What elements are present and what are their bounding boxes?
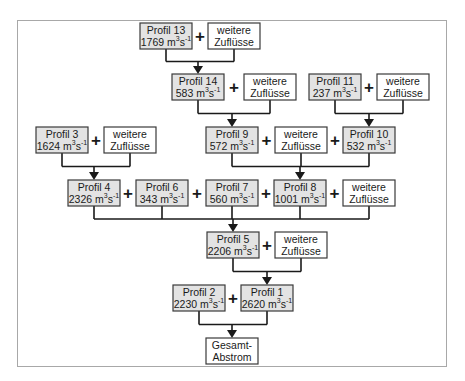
flow-connector	[335, 100, 403, 127]
box-line-2: Zuflüsse	[383, 87, 423, 99]
plus-sign: +	[228, 289, 238, 308]
profile-name: Profil 14	[179, 75, 218, 87]
box-line-1: weitere	[283, 128, 318, 140]
profile-box-p3: Profil 31624 m3s-1	[36, 127, 88, 153]
box-line-1: Gesamt-	[212, 339, 253, 351]
profile-name: Profil 10	[350, 128, 389, 140]
box-line-2: Abstrom	[212, 351, 251, 363]
inflow-box: weitereZuflüsse	[104, 127, 156, 153]
flow-connector	[199, 311, 267, 338]
box-line-2: Zuflüsse	[281, 245, 321, 257]
plus-sign: +	[123, 184, 133, 203]
discharge-value: 2620 m3s-1	[242, 297, 293, 310]
box-line-2: Zuflüsse	[349, 193, 389, 205]
plus-sign: +	[261, 184, 271, 203]
discharge-value: 560 m3s-1	[210, 192, 255, 205]
profile-box-p5: Profil 52206 m3s-1	[207, 232, 259, 258]
profile-box-p1: Profil 12620 m3s-1	[241, 285, 293, 311]
arrow-down-icon	[295, 172, 305, 180]
arrow-down-icon	[228, 224, 238, 232]
profile-box-p4: Profil 42326 m3s-1	[68, 180, 120, 206]
profile-box-p6: Profil 6343 m3s-1	[136, 180, 188, 206]
box-line-1: weitere	[351, 181, 386, 193]
profile-box-p7: Profil 7560 m3s-1	[206, 180, 258, 206]
flow-diagram: ++++++++++++Profil 131769 m3s-1weitereZu…	[0, 0, 465, 381]
plus-sign: +	[229, 78, 239, 97]
profile-box-p10: Profil 10532 m3s-1	[343, 127, 395, 153]
discharge-value: 1624 m3s-1	[37, 139, 88, 152]
profile-name: Profil 11	[316, 75, 354, 87]
box-line-1: weitere	[112, 128, 147, 140]
profile-box-p13: Profil 131769 m3s-1	[140, 23, 192, 49]
profile-box-p9: Profil 9572 m3s-1	[206, 127, 258, 153]
inflow-box: weitereZuflüsse	[244, 74, 296, 100]
flow-connector	[232, 153, 369, 180]
arrow-down-icon	[193, 66, 203, 74]
arrow-down-icon	[364, 119, 374, 127]
inflow-box: weitereZuflüsse	[343, 180, 395, 206]
discharge-value: 2230 m3s-1	[174, 297, 225, 310]
discharge-value: 343 m3s-1	[140, 192, 185, 205]
box-line-2: Zuflüsse	[281, 140, 321, 152]
discharge-value: 532 m3s-1	[347, 139, 392, 152]
plus-sign: +	[330, 131, 340, 150]
box-line-1: weitere	[252, 75, 287, 87]
arrow-down-icon	[227, 330, 237, 338]
inflow-box: weitereZuflüsse	[275, 232, 327, 258]
arrow-down-icon	[227, 119, 237, 127]
plus-sign: +	[330, 184, 340, 203]
total-outflow-box: Gesamt-Abstrom	[206, 338, 258, 364]
box-line-1: weitere	[216, 24, 251, 36]
flow-connector	[198, 100, 270, 127]
profile-box-p2: Profil 22230 m3s-1	[173, 285, 225, 311]
profile-box-p8: Profil 81001 m3s-1	[274, 180, 326, 206]
arrow-down-icon	[262, 277, 272, 285]
discharge-value: 2206 m3s-1	[208, 244, 259, 257]
profile-name: Profil 7	[216, 181, 249, 193]
discharge-value: 1769 m3s-1	[141, 35, 192, 48]
plus-sign: +	[91, 131, 101, 150]
box-line-1: weitere	[283, 233, 318, 245]
flow-connector	[233, 258, 301, 285]
profile-name: Profil 9	[216, 128, 249, 140]
plus-sign: +	[262, 236, 272, 255]
flow-connector	[166, 49, 234, 74]
discharge-value: 572 m3s-1	[210, 139, 255, 152]
box-line-1: weitere	[385, 75, 420, 87]
arrow-down-icon	[89, 172, 99, 180]
discharge-value: 583 m3s-1	[176, 86, 221, 99]
discharge-value: 1001 m3s-1	[275, 192, 326, 205]
discharge-value: 2326 m3s-1	[69, 192, 120, 205]
inflow-box: weitereZuflüsse	[208, 23, 260, 49]
box-line-2: Zuflüsse	[250, 87, 290, 99]
plus-sign: +	[262, 131, 272, 150]
plus-sign: +	[364, 78, 374, 97]
discharge-value: 237 m3s-1	[313, 86, 358, 99]
plus-sign: +	[192, 184, 202, 203]
inflow-box: weitereZuflüsse	[377, 74, 429, 100]
profile-box-p11: Profil 11237 m3s-1	[309, 74, 361, 100]
flow-connector	[94, 206, 369, 232]
inflow-box: weitereZuflüsse	[275, 127, 327, 153]
profile-name: Profil 6	[146, 181, 179, 193]
box-line-2: Zuflüsse	[110, 140, 150, 152]
box-line-2: Zuflüsse	[214, 36, 254, 48]
flow-connector	[62, 153, 130, 180]
plus-sign: +	[195, 27, 205, 46]
profile-box-p14: Profil 14583 m3s-1	[172, 74, 224, 100]
